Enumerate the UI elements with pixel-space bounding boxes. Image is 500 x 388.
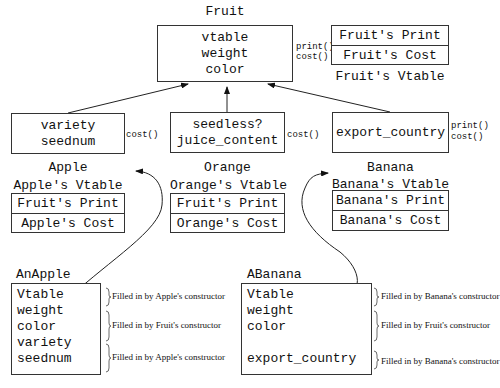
a-banana-title: ABanana [247,267,302,282]
an-apple-note-apple: Filled in by Apple's constructor [112,352,225,362]
a-banana-field-weight: weight [247,303,371,319]
a-banana-field-color: color [247,319,371,335]
an-apple-note-fruit: Filled in by Fruit's constructor [112,320,221,330]
a-banana-field-vtable: Vtable [247,287,371,303]
a-banana-note-fruit: Filled in by Fruit's constructor [381,320,490,330]
a-banana-note-vtable: Filled in by Banana's constructor [381,291,500,301]
a-banana-field-export-country: export_country [247,351,371,367]
an-apple-note-vtable: Filled in by Apple's constructor [112,291,225,301]
a-banana-note-banana: Filled in by Banana's constructor [381,356,500,366]
a-banana-object: Vtable weight color export_country [241,283,372,375]
